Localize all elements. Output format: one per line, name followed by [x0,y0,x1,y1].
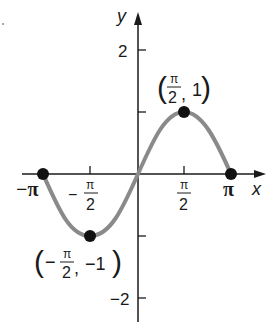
y-tick-label-2: 2 [118,42,127,61]
svg-text:π: π [86,178,94,192]
svg-text:π: π [180,178,188,192]
point-min [84,230,96,242]
x-tick-label-pi: π [223,178,234,200]
point-neg-pi [37,168,49,180]
x-tick-label-neg-half-pi: − π 2 [68,178,98,213]
x-axis-label: x [251,179,262,199]
svg-text:2: 2 [62,264,71,281]
svg-text:2: 2 [168,89,177,106]
svg-text:): ) [201,71,211,104]
svg-text:,: , [181,84,186,104]
svg-text:−: − [45,252,56,272]
svg-text:(: ( [157,71,167,104]
svg-text:2: 2 [179,196,188,213]
y-axis-arrow-icon [134,12,142,25]
point-max [178,106,190,118]
x-tick-label-neg-pi: −π [16,178,38,200]
svg-text:2: 2 [86,196,95,213]
point-pi [225,168,237,180]
svg-text:−1: −1 [85,254,106,274]
y-tick-label-neg2: −2 [110,290,129,309]
svg-text:π: π [170,72,178,86]
x-tick-label-half-pi: π 2 [177,178,191,213]
y-axis-label: y [115,6,127,26]
sine-graph: 2 −2 y x −π π − π 2 π 2 ( π 2 , 1 ) ( − … [0,0,269,322]
annotation-max-point: ( π 2 , 1 ) [157,71,211,106]
stray-mark [2,23,4,25]
svg-text:(: ( [34,245,44,278]
svg-text:−: − [68,186,77,203]
svg-text:π: π [63,247,71,261]
annotation-min-point: ( − π 2 , −1 ) [34,245,122,281]
x-axis-arrow-icon [254,170,266,178]
svg-text:): ) [112,245,122,278]
svg-text:,: , [74,258,79,278]
